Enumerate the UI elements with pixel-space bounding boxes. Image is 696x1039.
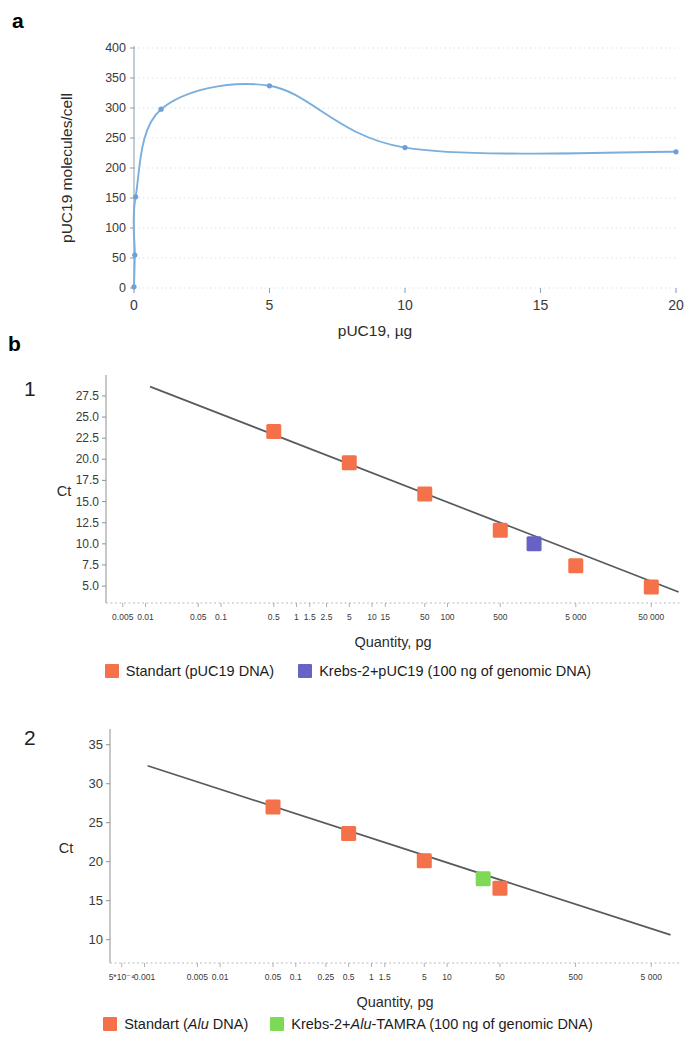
legend-swatch-krebs2-alu-tamra: [270, 1017, 284, 1031]
panel-b1-xtick: 50 000: [638, 612, 664, 622]
panel-b1-xtick: 5 000: [565, 612, 587, 622]
panel-a-xtick: 10: [397, 297, 413, 313]
panel-b2-ytick: 15: [89, 893, 103, 908]
panel-b1-data-point: [493, 523, 508, 538]
panel-a-data-point: [131, 284, 136, 289]
panel-b1-fit-line: [150, 387, 679, 592]
legend-swatch-standart-alu: [103, 1017, 117, 1031]
panel-a-ytick: 350: [105, 71, 126, 85]
panel-a-xtick: 20: [668, 297, 684, 313]
panel-b2-xtick: 1.5: [379, 972, 391, 982]
panel-a-data-point: [267, 83, 272, 88]
panel-a-xaxis-title: pUC19, µg: [338, 322, 412, 339]
panel-b2-xtick: 1: [369, 972, 374, 982]
panel-b2-svg: 3530252015105*10⁻⁴0.0010.0050.010.050.10…: [0, 715, 696, 1010]
panel-b1-xtick: 0.01: [137, 612, 154, 622]
panel-b2-ytick: 20: [89, 854, 103, 869]
panel-b2-xtick: 5*10⁻⁴: [109, 972, 135, 982]
panel-b1-ytick: 25.0: [76, 410, 100, 424]
panel-b1-ytick: 17.5: [76, 473, 100, 487]
chart-panel-b1: 27.525.022.520.017.515.012.510.07.55.00.…: [0, 365, 696, 655]
panel-b1-xtick: 0.05: [190, 612, 207, 622]
legend-item-krebs2-puc19: Krebs-2+pUC19 (100 ng of genomic DNA): [298, 663, 591, 679]
legend-swatch-standart-puc19: [105, 664, 119, 678]
panel-a-data-point: [132, 252, 137, 257]
panel-b1-xtick: 1.5: [304, 612, 316, 622]
panel-b1-xaxis-title: Quantity, pg: [354, 634, 431, 650]
legend-label-krebs2-alu-tamra: Krebs-2+Alu-TAMRA (100 ng of genomic DNA…: [291, 1016, 593, 1032]
panel-b1-xtick: 50: [420, 612, 430, 622]
panel-a-ytick: 150: [105, 191, 126, 205]
legend-item-krebs2-alu-tamra: Krebs-2+Alu-TAMRA (100 ng of genomic DNA…: [270, 1016, 593, 1032]
panel-b2-data-point: [266, 800, 281, 815]
panel-b1-ytick: 7.5: [82, 558, 99, 572]
panel-b1-data-point: [342, 455, 357, 470]
panel-b1-ytick: 12.5: [76, 516, 100, 530]
chart-panel-a: 05010015020025030035040005101520pUC19, µ…: [0, 30, 696, 330]
panel-a-ytick: 250: [105, 131, 126, 145]
panel-b1-data-point: [568, 558, 583, 573]
panel-b2-ytick: 10: [89, 932, 103, 947]
panel-b1-xtick: 5: [347, 612, 352, 622]
panel-b2-xtick: 5: [422, 972, 427, 982]
panel-b1-ytick: 5.0: [82, 579, 99, 593]
panel-a-data-point: [159, 107, 164, 112]
panel-a-data-point: [673, 149, 678, 154]
panel-a-xtick: 15: [533, 297, 549, 313]
panel-b1-xtick: 2.5: [321, 612, 333, 622]
panel-b1-ytick: 10.0: [76, 537, 100, 551]
panel-b2-xtick: 0.001: [134, 972, 156, 982]
panel-b2-xtick: 0.01: [212, 972, 229, 982]
panel-b2-xtick: 0.1: [290, 972, 302, 982]
panel-label-b: b: [8, 333, 21, 354]
legend-panel-b1: Standart (pUC19 DNA) Krebs-2+pUC19 (100 …: [0, 663, 696, 679]
panel-a-data-point: [133, 194, 138, 199]
panel-a-yaxis-title: pUC19 molecules/cell: [58, 93, 75, 243]
panel-b2-xtick: 500: [568, 972, 582, 982]
panel-b2-xtick: 0.5: [343, 972, 355, 982]
panel-b1-ytick: 22.5: [76, 431, 100, 445]
panel-b2-data-point: [476, 871, 491, 886]
panel-a-xtick: 0: [130, 297, 138, 313]
panel-b2-xaxis-title: Quantity, pg: [356, 994, 433, 1010]
panel-b2-data-point: [341, 826, 356, 841]
panel-b1-xtick: 15: [381, 612, 391, 622]
panel-b1-xtick: 0.1: [215, 612, 227, 622]
panel-b1-ytick: 15.0: [76, 495, 100, 509]
legend-label-standart-puc19: Standart (pUC19 DNA): [126, 663, 274, 679]
panel-b2-ytick: 35: [89, 737, 103, 752]
panel-a-ytick: 400: [105, 41, 126, 55]
panel-b1-yaxis-title: Ct: [57, 483, 72, 499]
panel-b1-data-point: [527, 536, 542, 551]
panel-b2-xtick: 5 000: [641, 972, 663, 982]
panel-b2-xtick: 0.25: [318, 972, 335, 982]
panel-b1-xtick: 0.005: [112, 612, 134, 622]
legend-item-standart-alu: Standart (Alu DNA): [103, 1016, 248, 1032]
panel-b1-xtick: 100: [440, 612, 454, 622]
legend-item-standart-puc19: Standart (pUC19 DNA): [105, 663, 274, 679]
panel-a-xtick: 5: [266, 297, 274, 313]
legend-label-standart-alu: Standart (Alu DNA): [124, 1016, 248, 1032]
panel-b1-xtick: 10: [367, 612, 377, 622]
legend-panel-b2: Standart (Alu DNA) Krebs-2+Alu-TAMRA (10…: [0, 1016, 696, 1032]
panel-b1-xtick: 500: [493, 612, 507, 622]
panel-b1-data-point: [644, 579, 659, 594]
panel-a-ytick: 50: [112, 251, 126, 265]
panel-b2-xtick: 10: [442, 972, 452, 982]
chart-panel-b2: 3530252015105*10⁻⁴0.0010.0050.010.050.10…: [0, 715, 696, 1010]
panel-a-curve: [134, 84, 676, 287]
panel-b1-data-point: [266, 424, 281, 439]
panel-b1-ytick: 20.0: [76, 452, 100, 466]
panel-a-ytick: 100: [105, 221, 126, 235]
panel-b2-data-point: [492, 881, 507, 896]
panel-label-a: a: [12, 10, 24, 31]
panel-a-ytick: 0: [119, 281, 126, 295]
panel-b2-fit-line: [148, 766, 671, 935]
panel-b2-data-point: [417, 853, 432, 868]
panel-b1-ytick: 27.5: [76, 389, 100, 403]
panel-a-ytick: 300: [105, 101, 126, 115]
panel-a-svg: 05010015020025030035040005101520pUC19, µ…: [0, 30, 696, 330]
panel-b2-xtick: 0.005: [187, 972, 209, 982]
legend-swatch-krebs2-puc19: [298, 664, 312, 678]
panel-b1-xtick: 1: [294, 612, 299, 622]
